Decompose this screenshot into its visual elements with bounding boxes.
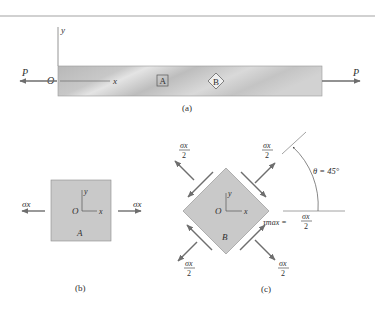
label-bottom-right-fraction: σx 2 <box>278 259 289 278</box>
label-top-left-fraction: σx 2 <box>179 141 190 160</box>
caption-b: (b) <box>75 283 86 293</box>
angle-arc <box>293 147 318 211</box>
inner-origin-label: O <box>215 206 222 216</box>
load-left-label: P <box>21 67 28 78</box>
shear-max-label: τmax = σx 2 <box>263 212 312 231</box>
y-axis-label: y <box>60 25 65 35</box>
stress-left-label: σx <box>22 199 30 209</box>
stress-right-label: σx <box>133 199 141 209</box>
svg-text:σx: σx <box>185 259 193 268</box>
svg-text:2: 2 <box>182 151 186 160</box>
svg-text:2: 2 <box>265 151 269 160</box>
inner-y-label: y <box>227 189 232 198</box>
panel-b: y x O A σx σx (b) <box>22 180 141 293</box>
svg-text:σx: σx <box>180 141 188 150</box>
inner-x-label: x <box>243 207 248 216</box>
inner-y-label: y <box>83 187 88 196</box>
element-a-label: A <box>76 228 83 238</box>
svg-text:σx: σx <box>263 141 271 150</box>
angle-label: θ = 45° <box>313 166 340 176</box>
svg-text:σx: σx <box>302 212 310 221</box>
normal-stress-arrow-bottom-right <box>255 240 275 260</box>
element-b-label: B <box>222 232 228 242</box>
stress-diagram: y x O A B P P (a) y x O A σx σx (b) y <box>0 0 375 317</box>
element-b-label: B <box>213 77 219 87</box>
load-right-label: P <box>352 67 359 78</box>
angle-reference-inclined <box>282 132 306 154</box>
caption-a: (a) <box>182 103 192 113</box>
normal-stress-arrow-top-left <box>175 161 194 180</box>
label-top-right-fraction: σx 2 <box>262 141 273 160</box>
panel-a: y x O A B P P (a) <box>20 25 360 113</box>
inner-origin-label: O <box>72 206 79 216</box>
normal-stress-arrow-top-right <box>255 163 275 183</box>
svg-text:2: 2 <box>187 269 191 278</box>
label-bottom-left-fraction: σx 2 <box>184 259 195 278</box>
element-a-label: A <box>160 76 167 86</box>
svg-text:τmax =: τmax = <box>263 218 287 227</box>
panel-c: y x O B σx 2 σx 2 σx 2 σx <box>175 132 345 294</box>
svg-text:σx: σx <box>279 259 287 268</box>
x-axis-label: x <box>112 76 117 86</box>
inner-x-label: x <box>98 207 103 216</box>
svg-text:2: 2 <box>281 269 285 278</box>
caption-c: (c) <box>261 284 271 294</box>
svg-text:2: 2 <box>304 222 308 231</box>
